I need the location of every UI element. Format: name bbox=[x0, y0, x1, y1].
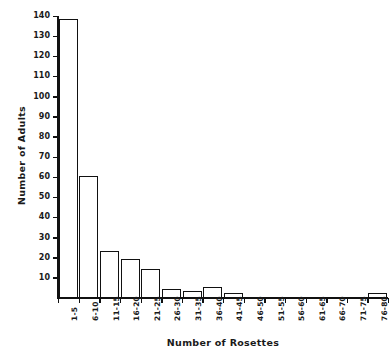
x-tick-label: 26-30 bbox=[174, 296, 182, 321]
y-tick-mark bbox=[53, 257, 58, 259]
histogram-figure: Number of Adults Number of Rosettes 1020… bbox=[0, 0, 391, 353]
y-tick-mark bbox=[53, 177, 58, 179]
x-tick-label: 66-70 bbox=[339, 296, 347, 321]
y-tick-label: 50 bbox=[39, 191, 50, 202]
y-tick-label: 120 bbox=[33, 50, 50, 61]
y-tick-label: 30 bbox=[39, 232, 50, 243]
x-tick-label: 56-60 bbox=[298, 296, 306, 321]
faint-header-text bbox=[0, 0, 391, 7]
x-tick-label: 76-80 bbox=[381, 296, 389, 321]
x-tick-label: 71-75 bbox=[360, 296, 368, 321]
x-tick-label: 11-15 bbox=[113, 296, 121, 321]
y-tick-mark bbox=[53, 76, 58, 78]
bar bbox=[100, 251, 119, 297]
y-tick-label: 70 bbox=[39, 151, 50, 162]
x-tick-label: 36-40 bbox=[216, 296, 224, 321]
y-tick-mark bbox=[53, 277, 58, 279]
y-tick-label: 40 bbox=[39, 211, 50, 222]
bar bbox=[79, 176, 98, 297]
x-tick-label: 46-50 bbox=[257, 296, 265, 321]
x-tick-mark bbox=[79, 298, 80, 303]
plot-area: 102030405060708090100110120130140 1-56-1… bbox=[58, 16, 388, 298]
bar bbox=[121, 259, 140, 297]
bar bbox=[59, 19, 78, 297]
bar bbox=[141, 269, 160, 297]
x-tick-label: 31-35 bbox=[195, 296, 203, 321]
y-tick-label: 10 bbox=[39, 272, 50, 283]
y-tick-label: 130 bbox=[33, 30, 50, 41]
y-tick-label: 110 bbox=[33, 70, 50, 81]
x-tick-mark bbox=[58, 298, 59, 303]
x-tick-label: 61-65 bbox=[319, 296, 327, 321]
y-tick-mark bbox=[53, 116, 58, 118]
y-tick-label: 20 bbox=[39, 252, 50, 263]
y-tick-label: 90 bbox=[39, 111, 50, 122]
y-tick-label: 140 bbox=[33, 10, 50, 21]
y-tick-mark bbox=[53, 56, 58, 58]
y-tick-mark bbox=[53, 217, 58, 219]
x-tick-label: 51-55 bbox=[278, 296, 286, 321]
x-tick-label: 41-45 bbox=[236, 296, 244, 321]
y-tick-mark bbox=[53, 197, 58, 199]
y-axis-title: Number of Adults bbox=[16, 86, 27, 226]
x-tick-label: 16-20 bbox=[133, 296, 141, 321]
x-tick-label: 21-25 bbox=[154, 296, 162, 321]
y-tick-mark bbox=[53, 136, 58, 138]
y-tick-mark bbox=[53, 157, 58, 159]
y-tick-label: 100 bbox=[33, 91, 50, 102]
x-tick-label: 1-5 bbox=[71, 307, 79, 321]
y-tick-mark bbox=[53, 96, 58, 98]
y-tick-mark bbox=[53, 237, 58, 239]
y-tick-mark bbox=[53, 36, 58, 38]
x-axis-title: Number of Rosettes bbox=[55, 337, 391, 348]
x-tick-label: 6-10 bbox=[92, 301, 100, 321]
y-tick-label: 60 bbox=[39, 171, 50, 182]
y-tick-mark bbox=[53, 16, 58, 18]
y-tick-label: 80 bbox=[39, 131, 50, 142]
